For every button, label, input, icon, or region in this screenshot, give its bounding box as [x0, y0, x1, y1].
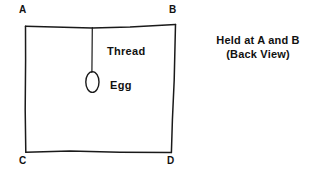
caption-line-1: Held at A and B: [198, 33, 318, 47]
corner-label-b: B: [169, 5, 176, 15]
corner-label-a: A: [19, 5, 26, 15]
corner-label-d: D: [167, 156, 174, 166]
caption-line-2: (Back View): [198, 47, 318, 61]
frame-bottom-edge: [26, 151, 172, 153]
diagram-drawing: [0, 0, 320, 176]
frame-right-edge: [171, 25, 175, 153]
thread-label: Thread: [107, 46, 145, 57]
figure-caption: Held at A and B (Back View): [198, 33, 318, 61]
figure-canvas: A B C D Thread Egg Held at A and B (Back…: [0, 0, 320, 176]
corner-label-c: C: [19, 156, 26, 166]
egg-shape: [86, 72, 99, 93]
frame-top-edge: [26, 25, 176, 28]
egg-label: Egg: [110, 80, 132, 91]
frame-left-edge: [25, 26, 26, 152]
